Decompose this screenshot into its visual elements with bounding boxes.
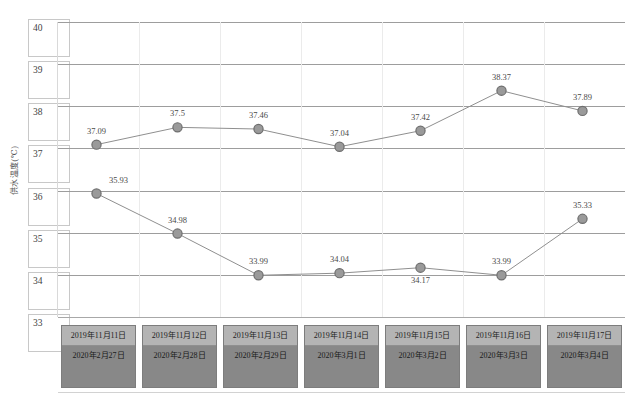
y-axis-tick-label: 35 [33, 234, 43, 244]
x-axis-label-secondary: 2020年2月28日 [143, 347, 216, 365]
x-axis-label-primary: 2019年11月16日 [467, 326, 540, 346]
data-point-marker [416, 263, 425, 272]
data-point-marker [173, 229, 182, 238]
y-axis-tick-label: 38 [33, 107, 43, 117]
data-point-marker [254, 124, 263, 133]
data-point-label: 34.04 [330, 254, 349, 264]
x-axis-label-primary: 2019年11月17日 [548, 326, 621, 346]
data-point-marker [335, 142, 344, 151]
data-point-label: 33.99 [492, 256, 511, 266]
x-axis-label-secondary: 2020年2月29日 [224, 347, 297, 365]
data-point-label: 38.37 [492, 72, 511, 82]
y-axis-tick-label: 33 [33, 318, 43, 328]
x-axis-date-box: 2019年11月14日2020年3月1日 [304, 325, 379, 388]
data-point-marker [578, 106, 587, 115]
x-axis-label-secondary: 2020年3月4日 [548, 347, 621, 365]
y-axis-tick-label: 39 [33, 65, 43, 75]
x-axis-date-row: 2019年11月11日2020年2月27日2019年11月12日2020年2月2… [58, 325, 625, 390]
line-chart: 供水温度(℃) 4039383736353433 37.0937.537.463… [0, 0, 635, 405]
y-axis-title: 供水温度(℃) [8, 116, 19, 226]
bottom-rule [58, 392, 625, 393]
y-axis-tick-label: 36 [33, 192, 43, 202]
data-point-label: 37.46 [249, 110, 268, 120]
data-point-label: 34.98 [168, 215, 187, 225]
y-axis-tick-label: 37 [33, 149, 43, 159]
x-axis-date-box: 2019年11月17日2020年3月4日 [547, 325, 622, 388]
data-point-marker [173, 123, 182, 132]
x-axis-label-secondary: 2020年3月1日 [305, 347, 378, 365]
x-axis-label-secondary: 2020年2月27日 [62, 347, 135, 365]
plot-area: 37.0937.537.4637.0437.4238.3737.8935.933… [58, 0, 625, 340]
x-axis-date-box: 2019年11月12日2020年2月28日 [142, 325, 217, 388]
y-axis-tick-label: 40 [33, 23, 43, 33]
x-axis-label-primary: 2019年11月13日 [224, 326, 297, 346]
data-point-marker [416, 126, 425, 135]
x-axis-label-primary: 2019年11月11日 [62, 326, 135, 346]
data-point-label: 37.04 [330, 128, 349, 138]
data-point-label: 35.93 [109, 175, 128, 185]
x-axis-label-primary: 2019年11月15日 [386, 326, 459, 346]
x-axis-label-primary: 2019年11月14日 [305, 326, 378, 346]
data-point-marker [335, 269, 344, 278]
x-axis-label-secondary: 2020年3月3日 [467, 347, 540, 365]
data-point-label: 34.17 [411, 275, 430, 285]
x-axis-date-box: 2019年11月13日2020年2月29日 [223, 325, 298, 388]
data-point-label: 37.89 [573, 92, 592, 102]
x-axis-date-box: 2019年11月15日2020年3月2日 [385, 325, 460, 388]
series-line-2019 [97, 91, 583, 147]
data-point-marker [497, 86, 506, 95]
data-point-label: 35.33 [573, 200, 592, 210]
data-point-label: 33.99 [249, 256, 268, 266]
data-point-label: 37.42 [411, 112, 430, 122]
y-axis-tick-label: 34 [33, 276, 43, 286]
x-axis-label-secondary: 2020年3月2日 [386, 347, 459, 365]
data-point-label: 37.09 [87, 126, 106, 136]
data-point-marker [92, 140, 101, 149]
data-point-marker [92, 189, 101, 198]
x-axis-label-primary: 2019年11月12日 [143, 326, 216, 346]
x-axis-date-box: 2019年11月11日2020年2月27日 [61, 325, 136, 388]
series-lines [58, 0, 625, 340]
data-point-marker [578, 214, 587, 223]
data-point-marker [497, 271, 506, 280]
data-point-marker [254, 271, 263, 280]
data-point-label: 37.5 [170, 108, 185, 118]
x-axis-date-box: 2019年11月16日2020年3月3日 [466, 325, 541, 388]
